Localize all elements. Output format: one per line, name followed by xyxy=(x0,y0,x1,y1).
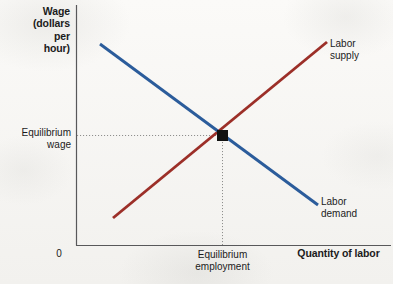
equilibrium-wage-label: Equilibrium wage xyxy=(2,127,71,151)
y-axis-title: Wage (dollars per hour) xyxy=(0,5,70,55)
figure-canvas: Wage (dollars per hour) Quantity of labo… xyxy=(0,0,393,284)
labor-supply-curve-label: Labor supply xyxy=(330,38,390,62)
equilibrium-point-marker xyxy=(217,130,228,141)
labor-demand-curve-label: Labor demand xyxy=(321,196,389,220)
x-axis-title: Quantity of labor xyxy=(288,247,389,259)
equilibrium-employment-label: Equilibrium employment xyxy=(167,249,278,273)
labor-demand-curve xyxy=(100,44,318,205)
origin-label: 0 xyxy=(52,248,66,260)
